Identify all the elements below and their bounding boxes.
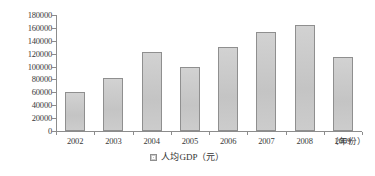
x-axis-tick-label: 2004: [132, 135, 172, 147]
y-axis-tick-label: 40000: [6, 101, 52, 110]
bar: [256, 32, 276, 131]
y-axis-tick-label: 120000: [6, 49, 52, 58]
bar-chart: 0200004000060000800001000001200001400001…: [0, 0, 375, 176]
y-axis-tick-label: 80000: [6, 75, 52, 84]
x-axis-tick-label: 2003: [93, 135, 133, 147]
bar: [218, 47, 238, 131]
y-axis-tick-label: 140000: [6, 36, 52, 45]
x-axis-unit-label: （年份）: [330, 135, 366, 147]
x-axis-tick-label: 2002: [55, 135, 95, 147]
chart-legend: 人均GDP（元）: [0, 152, 375, 163]
y-axis-tick-label: 160000: [6, 23, 52, 32]
y-axis-tick-label: 60000: [6, 88, 52, 97]
legend-swatch-renjun-gdp: [150, 154, 157, 161]
bar: [65, 92, 85, 131]
bar: [180, 67, 200, 131]
bar: [103, 78, 123, 131]
bars-layer: [56, 15, 362, 131]
bar: [333, 57, 353, 131]
x-axis-tick-label: 2008: [285, 135, 325, 147]
y-axis-tick-labels: 0200004000060000800001000001200001400001…: [6, 10, 52, 134]
legend-label-renjun-gdp: 人均GDP（元）: [161, 152, 224, 163]
x-axis-tick-labels: 20022003200420052006200720082009: [56, 135, 362, 149]
y-axis-tick-label: 0: [6, 127, 52, 136]
x-axis-tick-label: 2006: [208, 135, 248, 147]
y-axis-tick-label: 100000: [6, 62, 52, 71]
x-axis-tick-label: 2005: [170, 135, 210, 147]
y-axis-tick-label: 20000: [6, 114, 52, 123]
bar: [295, 25, 315, 131]
x-axis-tick-label: 2007: [246, 135, 286, 147]
bar: [142, 52, 162, 131]
y-axis-tick-label: 180000: [6, 11, 52, 20]
plot-area: 0200004000060000800001000001200001400001…: [0, 0, 375, 150]
